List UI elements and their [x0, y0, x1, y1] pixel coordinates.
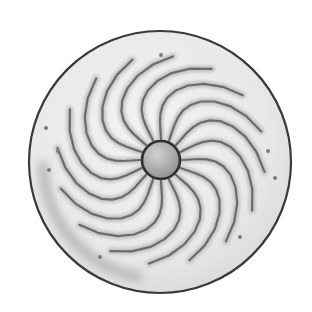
rivet-dot: [273, 176, 277, 180]
central-boss: [142, 141, 180, 179]
rivet-dot: [266, 149, 270, 153]
rivet-dot: [98, 255, 102, 259]
shield-illustration: Pencil drawing of a round shield with sw…: [0, 0, 312, 312]
rivet-dot: [238, 235, 242, 239]
shield-drawing: [0, 0, 312, 312]
rivet-dot: [47, 168, 51, 172]
rivet-dot: [44, 126, 48, 130]
rivet-dot: [56, 149, 60, 153]
rivet-dot: [159, 53, 163, 57]
